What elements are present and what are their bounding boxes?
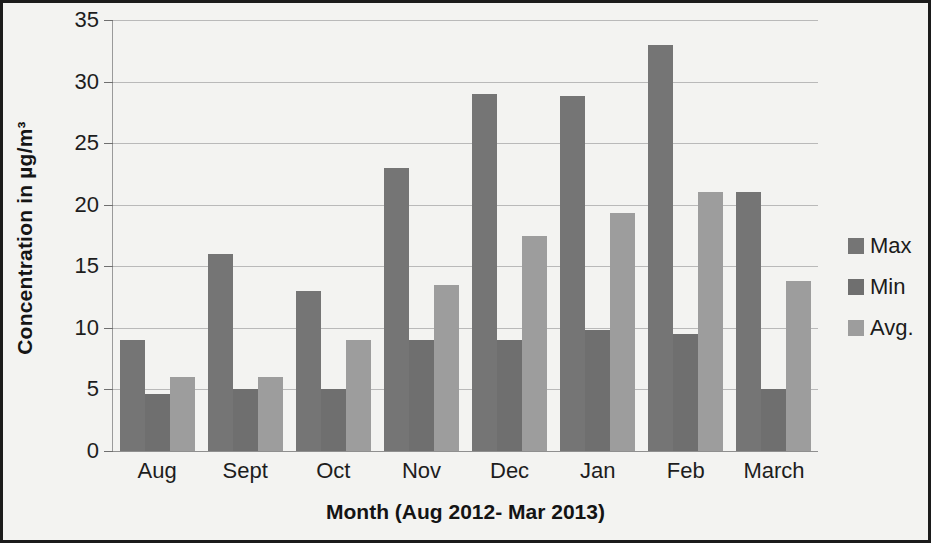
bar-group bbox=[377, 20, 465, 451]
bar bbox=[208, 254, 233, 451]
bar-group bbox=[642, 20, 730, 451]
x-axis-tick-labels: AugSeptOctNovDecJanFebMarch bbox=[113, 458, 818, 498]
chart-figure: Concentration in µg/m³ AugSeptOctNovDecJ… bbox=[0, 0, 931, 543]
bar-groups bbox=[113, 20, 818, 451]
x-axis-tick-label: March bbox=[730, 458, 818, 498]
y-axis-tick bbox=[104, 143, 113, 144]
bar bbox=[610, 213, 635, 451]
bar bbox=[497, 340, 522, 451]
y-axis-tick bbox=[104, 451, 113, 452]
legend-label: Min bbox=[870, 274, 905, 300]
x-axis-tick-label: Sept bbox=[201, 458, 289, 498]
bar-group bbox=[113, 20, 201, 451]
x-axis-tick-label: Oct bbox=[289, 458, 377, 498]
bar bbox=[145, 394, 170, 451]
x-axis-title: Month (Aug 2012- Mar 2013) bbox=[113, 500, 818, 524]
legend-swatch-icon bbox=[848, 238, 864, 254]
y-axis-tick bbox=[104, 82, 113, 83]
bar bbox=[346, 340, 371, 451]
legend-item: Max bbox=[848, 225, 930, 266]
y-axis-tick bbox=[104, 328, 113, 329]
y-axis-tick-label: 35 bbox=[29, 7, 99, 33]
bar bbox=[786, 281, 811, 451]
bar bbox=[585, 330, 610, 451]
y-axis-tick-label: 20 bbox=[29, 192, 99, 218]
x-axis-tick-label: Aug bbox=[113, 458, 201, 498]
x-axis-tick-label: Dec bbox=[466, 458, 554, 498]
y-axis-tick-label: 10 bbox=[29, 315, 99, 341]
bar bbox=[296, 291, 321, 451]
y-axis-tick bbox=[104, 205, 113, 206]
y-axis-tick-label: 30 bbox=[29, 69, 99, 95]
y-axis-tick bbox=[104, 266, 113, 267]
x-axis-tick-label: Nov bbox=[377, 458, 465, 498]
x-axis-tick-label: Jan bbox=[554, 458, 642, 498]
bar-group bbox=[466, 20, 554, 451]
bar-group bbox=[289, 20, 377, 451]
x-axis-tick-label: Feb bbox=[642, 458, 730, 498]
bar bbox=[170, 377, 195, 451]
bar bbox=[120, 340, 145, 451]
legend-swatch-icon bbox=[848, 320, 864, 336]
legend-label: Avg. bbox=[870, 315, 914, 341]
bar bbox=[560, 96, 585, 451]
bar-group bbox=[554, 20, 642, 451]
legend-item: Avg. bbox=[848, 307, 930, 348]
legend-label: Max bbox=[870, 233, 912, 259]
bar bbox=[384, 168, 409, 451]
bar bbox=[522, 236, 547, 452]
y-axis-tick-label: 5 bbox=[29, 376, 99, 402]
bar bbox=[472, 94, 497, 451]
bar bbox=[258, 377, 283, 451]
y-axis-tick-label: 25 bbox=[29, 130, 99, 156]
legend-item: Min bbox=[848, 266, 930, 307]
bar bbox=[648, 45, 673, 451]
bar bbox=[233, 389, 258, 451]
bar bbox=[698, 192, 723, 451]
bar bbox=[736, 192, 761, 451]
bar bbox=[409, 340, 434, 451]
plot-area bbox=[113, 20, 818, 451]
y-axis-tick bbox=[104, 20, 113, 21]
bar bbox=[673, 334, 698, 451]
legend-swatch-icon bbox=[848, 279, 864, 295]
x-axis-line bbox=[112, 451, 818, 452]
bar-group bbox=[201, 20, 289, 451]
y-axis-tick-label: 15 bbox=[29, 253, 99, 279]
bar bbox=[321, 389, 346, 451]
bar-group bbox=[730, 20, 818, 451]
bar bbox=[761, 389, 786, 451]
chart-legend: MaxMinAvg. bbox=[848, 225, 930, 348]
bar bbox=[434, 285, 459, 451]
y-axis-tick bbox=[104, 389, 113, 390]
y-axis-tick-label: 0 bbox=[29, 438, 99, 464]
